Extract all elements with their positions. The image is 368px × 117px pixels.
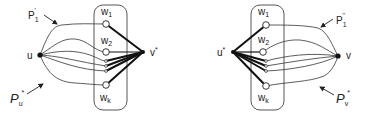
right-wk-vertex — [263, 83, 270, 90]
left-panel: u v* w1 w2 wk P1' Pu* — [10, 5, 158, 110]
right-ustar-label: u* — [217, 46, 226, 58]
left-small-vertex — [105, 60, 108, 63]
left-wk-label: wk — [99, 92, 111, 104]
right-wk-label: wk — [257, 92, 269, 104]
left-u-vertex — [37, 52, 42, 57]
right-v-vertex — [335, 53, 340, 58]
right-w2-vertex — [260, 49, 267, 56]
diagram-canvas: u v* w1 w2 wk P1' Pu* — [0, 0, 368, 117]
right-panel: u* v w1 w2 wk P1'' Pv* — [217, 5, 351, 110]
left-w2-vertex — [103, 49, 110, 56]
left-p1-label: P1' — [28, 7, 39, 23]
left-pustar-arrow — [27, 84, 43, 94]
left-small-vertex — [105, 70, 108, 73]
right-small-vertex — [265, 60, 268, 63]
right-w2-label: w2 — [257, 34, 269, 46]
left-w2-label: w2 — [100, 35, 112, 47]
right-small-vertex — [265, 65, 268, 68]
left-u-label: u — [27, 50, 33, 61]
right-p1-label: P1'' — [336, 12, 347, 28]
right-w1-vertex — [263, 22, 270, 29]
left-thin-paths — [40, 24, 106, 85]
right-p1-arrow — [321, 19, 333, 27]
right-thin-paths — [263, 25, 338, 86]
left-w1-label: w1 — [100, 6, 112, 18]
left-small-vertex — [105, 65, 108, 68]
right-pvstar-arrow — [320, 87, 334, 95]
left-w1-vertex — [103, 21, 110, 28]
left-wk-vertex — [103, 82, 110, 89]
left-vstar-vertex — [141, 50, 145, 54]
left-thick-edges — [106, 24, 143, 85]
left-vstar-label: v* — [150, 46, 158, 58]
right-ustar-vertex — [231, 50, 235, 54]
right-v-label: v — [346, 50, 351, 61]
left-pustar-label: Pu* — [10, 89, 25, 107]
right-small-vertex — [265, 70, 268, 73]
right-pvstar-label: Pv* — [336, 89, 350, 107]
left-p1-arrow — [44, 15, 57, 24]
right-w1-label: w1 — [257, 6, 269, 18]
